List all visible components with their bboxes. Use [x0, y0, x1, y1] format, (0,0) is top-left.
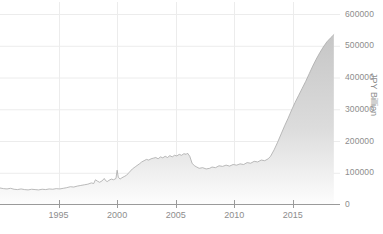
chart-plot-area: [0, 0, 383, 234]
x-axis-tick-2015: 2015: [283, 211, 303, 220]
y-axis-tick-0: 0: [345, 200, 350, 209]
chart-container: 0100000200000300000400000500000600000 19…: [0, 0, 383, 234]
x-axis-tick-1995: 1995: [49, 211, 69, 220]
y-axis-tick-500000: 500000: [345, 41, 374, 50]
y-axis-title: JPY Billion: [369, 63, 378, 127]
y-axis-tick-200000: 200000: [345, 137, 374, 146]
y-axis-tick-600000: 600000: [345, 10, 374, 19]
x-axis-tick-2010: 2010: [224, 211, 244, 220]
x-axis-tick-2000: 2000: [107, 211, 127, 220]
area-series: [0, 35, 334, 205]
y-axis-tick-100000: 100000: [345, 168, 374, 177]
x-axis-tick-2005: 2005: [166, 211, 186, 220]
